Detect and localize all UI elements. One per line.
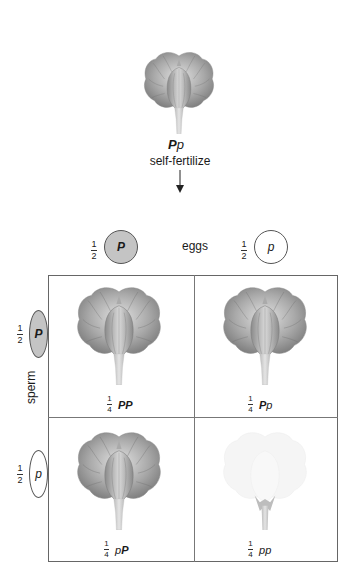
sperm-dominant-gamete: P (29, 310, 48, 358)
cell-genotype-pp: pp (259, 544, 271, 556)
cell-genotype-PP: PP (118, 399, 133, 411)
sperm-recessive-gamete: p (29, 450, 48, 498)
process-label: self-fertilize (130, 154, 230, 168)
grid-divider-vertical (194, 275, 195, 562)
egg-fraction-2: 12 (241, 240, 247, 261)
eggs-label: eggs (175, 239, 215, 253)
cell-flower-pP (76, 430, 162, 530)
cell-fraction-pp: 14 (248, 540, 253, 559)
egg-recessive-gamete: p (254, 230, 288, 264)
cell-genotype-pP: pP (115, 544, 128, 556)
cell-flower-Pp (222, 285, 308, 385)
cell-fraction-pP: 14 (104, 540, 109, 559)
sperm-fraction-2: 12 (17, 464, 23, 485)
egg-fraction-1: 12 (91, 240, 97, 261)
arrow-down-icon (175, 170, 185, 194)
cell-fraction-Pp: 14 (248, 395, 253, 414)
cell-fraction-PP: 14 (107, 395, 112, 414)
cell-flower-PP (76, 285, 162, 385)
sperm-fraction-1: 12 (17, 324, 23, 345)
cell-genotype-Pp: Pp (259, 399, 272, 411)
parent-genotype: Pp (168, 137, 184, 152)
egg-dominant-gamete: P (104, 230, 138, 264)
sperm-label: sperm (24, 371, 38, 404)
parent-flower-image (143, 50, 215, 134)
cell-flower-pp (222, 430, 308, 530)
grid-divider-horizontal (48, 417, 338, 418)
